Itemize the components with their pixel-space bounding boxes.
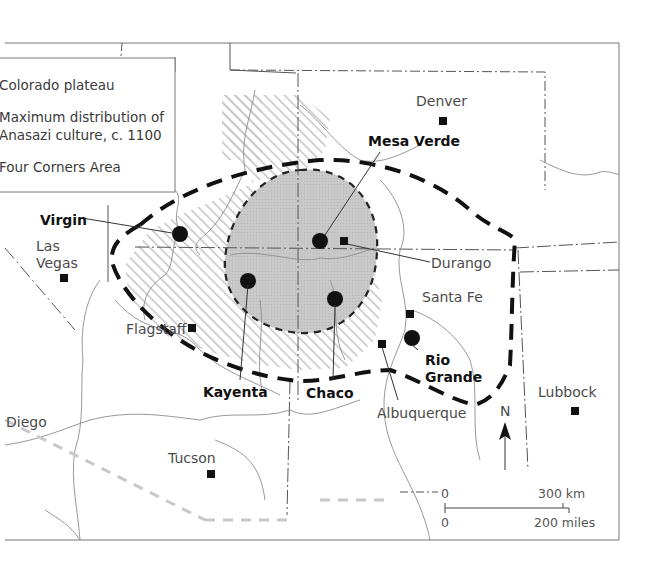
label-grande: Grande — [425, 369, 482, 385]
label-santa-fe: Santa Fe — [422, 289, 483, 305]
svg-text:0: 0 — [441, 486, 449, 501]
north-arrow: N — [499, 403, 511, 470]
legend: Colorado plateau Maximum distribution of… — [0, 58, 175, 192]
international-border — [5, 420, 390, 520]
scale-bar: 0 300 km 0 200 miles — [441, 486, 595, 530]
label-virgin: Virgin — [40, 212, 87, 228]
legend-anasazi-line1: Maximum distribution of — [0, 109, 165, 125]
svg-text:0: 0 — [441, 515, 449, 530]
label-lubbock: Lubbock — [538, 384, 597, 400]
label-denver: Denver — [416, 93, 467, 109]
legend-anasazi-line2: Anasazi culture, c. 1100 — [0, 127, 162, 143]
anasazi-map: Colorado plateau Maximum distribution of… — [0, 0, 652, 569]
north-label: N — [500, 403, 510, 419]
label-tucson: Tucson — [167, 450, 216, 466]
label-chaco: Chaco — [306, 385, 354, 401]
label-flagstaff: Flagstaff — [126, 321, 187, 337]
label-mesa-verde: Mesa Verde — [368, 133, 460, 149]
label-rio: Rio — [425, 352, 451, 368]
label-vegas: Vegas — [36, 255, 78, 271]
label-albuquerque: Albuquerque — [377, 405, 466, 421]
label-kayenta: Kayenta — [203, 384, 268, 400]
legend-colorado-plateau: Colorado plateau — [0, 77, 115, 93]
label-las: Las — [36, 238, 60, 254]
svg-text:200 miles: 200 miles — [534, 515, 595, 530]
svg-text:300 km: 300 km — [538, 486, 585, 501]
legend-four-corners: Four Corners Area — [0, 159, 121, 175]
label-diego: Diego — [6, 414, 47, 430]
label-durango: Durango — [431, 255, 491, 271]
